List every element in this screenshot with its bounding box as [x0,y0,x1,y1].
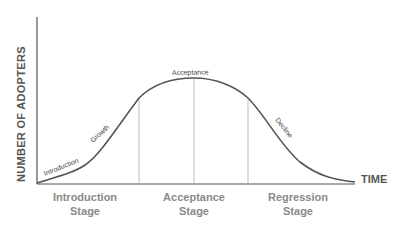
stage-acceptance-line1: Acceptance [139,190,249,204]
curve-label-introduction: Introduction [43,157,80,177]
stage-introduction-line2: Stage [30,204,140,218]
stage-regression-line2: Stage [243,204,353,218]
adoption-curve [37,78,355,183]
adoption-lifecycle-diagram: NUMBER OF ADOPTERS TIME Introduction Gro… [0,0,404,226]
stage-label-acceptance: Acceptance Stage [139,190,249,218]
curve-label-acceptance: Acceptance [172,68,209,77]
stage-regression-line1: Regression [243,190,353,204]
stage-label-introduction: Introduction Stage [30,190,140,218]
x-axis-label: TIME [361,173,387,185]
y-axis-label: NUMBER OF ADOPTERS [15,46,27,182]
stage-label-regression: Regression Stage [243,190,353,218]
stage-introduction-line1: Introduction [30,190,140,204]
stage-acceptance-line2: Stage [139,204,249,218]
